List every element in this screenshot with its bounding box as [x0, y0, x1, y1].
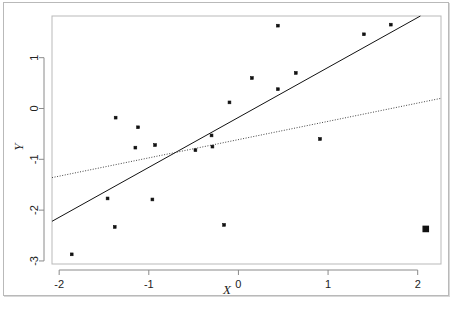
- data-point: [106, 197, 109, 200]
- data-point: [114, 116, 117, 119]
- solid-regression-line: [52, 16, 420, 221]
- data-point: [210, 134, 213, 137]
- data-point: [223, 223, 226, 226]
- data-point: [113, 226, 116, 229]
- y-tick-label: -2: [28, 205, 40, 215]
- data-point: [194, 149, 197, 152]
- highlighted-data-point: [423, 226, 428, 231]
- dotted-regression-line: [52, 98, 441, 177]
- x-axis-title: X: [0, 283, 454, 297]
- data-point: [137, 126, 140, 129]
- data-point: [276, 24, 279, 27]
- y-tick-label: 1: [28, 55, 40, 61]
- y-tick-label: -1: [28, 154, 40, 164]
- data-point: [363, 33, 366, 36]
- data-point: [211, 145, 214, 148]
- data-point: [151, 198, 154, 201]
- y-tick-label: -3: [28, 256, 40, 266]
- data-point: [134, 146, 137, 149]
- data-point: [250, 77, 253, 80]
- data-point: [70, 253, 73, 256]
- y-axis: 10-1-2-3: [28, 55, 44, 266]
- figure-container: -2-1012 10-1-2-3 X Y: [0, 0, 454, 316]
- y-axis-title: Y: [12, 127, 26, 167]
- data-point: [294, 72, 297, 75]
- data-point: [154, 144, 157, 147]
- data-point: [319, 138, 322, 141]
- data-point: [276, 88, 279, 91]
- data-points: [70, 23, 428, 256]
- regression-lines: [52, 16, 441, 221]
- data-point: [228, 101, 231, 104]
- data-point: [389, 23, 392, 26]
- y-tick-label: 0: [28, 105, 40, 111]
- plot-frame: [52, 16, 441, 264]
- scatter-plot: -2-1012 10-1-2-3: [0, 0, 454, 316]
